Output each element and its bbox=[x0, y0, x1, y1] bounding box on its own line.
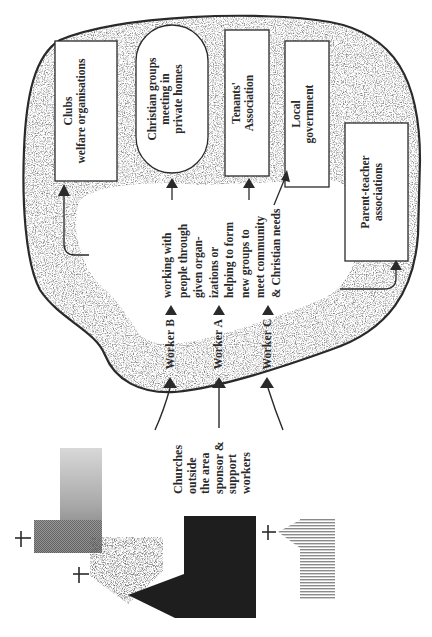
sponsor-label: Churches outside the area sponsor & supp… bbox=[172, 434, 253, 494]
worker-a-label: Worker A bbox=[212, 316, 225, 372]
worker-description: working with people through given organ-… bbox=[160, 198, 284, 298]
label-local-gov: Local government bbox=[290, 54, 316, 174]
label-tenants: Tenants' Association bbox=[230, 43, 256, 163]
label-pta: Parent-teacher associations bbox=[359, 130, 385, 254]
church-symbol-striped bbox=[278, 518, 335, 600]
sponsor-lines bbox=[155, 388, 283, 430]
worker-b-label: Worker B bbox=[164, 316, 177, 372]
worker-c-label: Worker C bbox=[261, 316, 274, 372]
label-christian-groups: Christian groups meeting in private home… bbox=[146, 38, 186, 160]
label-clubs: Clubs welfare organisations bbox=[62, 51, 88, 171]
